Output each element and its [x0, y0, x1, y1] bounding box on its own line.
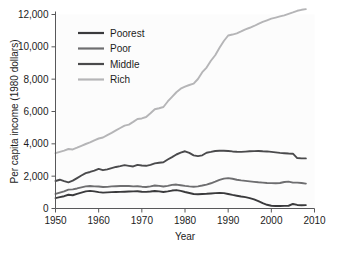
x-tick-label: 1980	[174, 215, 197, 226]
plot-background	[56, 15, 315, 209]
y-axis-title: Per capita income (1980 dollars)	[9, 40, 20, 184]
y-axis-ticks: 02,0004,0006,0008,00010,00012,000	[18, 9, 56, 214]
y-tick-label: 6,000	[23, 106, 48, 117]
x-tick-label: 2010	[303, 215, 326, 226]
line-chart: 02,0004,0006,0008,00010,00012,000 195019…	[0, 0, 337, 255]
y-tick-label: 10,000	[18, 41, 49, 52]
x-tick-label: 2000	[260, 215, 283, 226]
x-tick-label: 1960	[88, 215, 111, 226]
legend-label-poor: Poor	[110, 43, 132, 54]
y-tick-label: 2,000	[23, 171, 48, 182]
chart-figure: 02,0004,0006,0008,00010,00012,000 195019…	[0, 0, 337, 255]
y-tick-label: 4,000	[23, 138, 48, 149]
x-tick-label: 1950	[44, 215, 67, 226]
x-tick-label: 1990	[217, 215, 240, 226]
y-tick-label: 8,000	[23, 74, 48, 85]
x-tick-label: 1970	[131, 215, 154, 226]
legend-label-middle: Middle	[110, 59, 140, 70]
x-axis-title: Year	[175, 231, 196, 242]
x-axis-ticks: 1950196019701980199020002010	[44, 209, 326, 226]
y-tick-label: 0	[43, 203, 49, 214]
legend-label-poorest: Poorest	[110, 28, 145, 39]
legend-label-rich: Rich	[110, 74, 130, 85]
y-tick-label: 12,000	[18, 9, 49, 20]
